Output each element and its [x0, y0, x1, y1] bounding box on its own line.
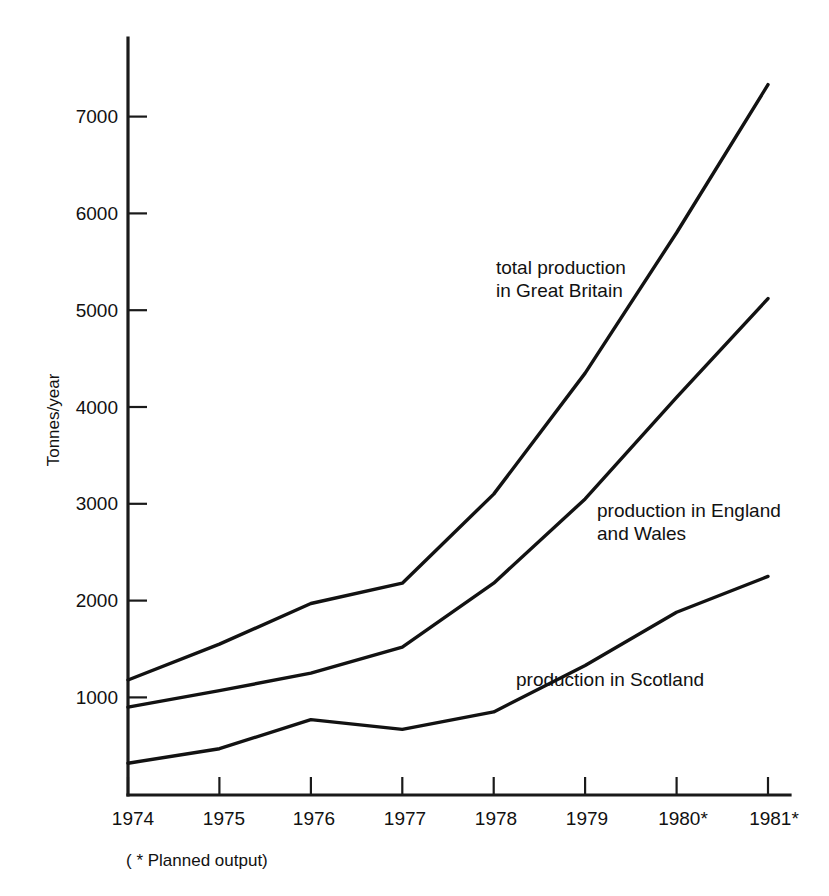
y-axis-title: Tonnes/year	[44, 373, 63, 466]
x-tick-label-1977: 1977	[384, 808, 426, 829]
chart-background	[0, 0, 829, 896]
annotation-total-line1: total production	[496, 257, 626, 278]
chart-canvas: 1000 2000 3000 4000 5000 6000 7000 Tonne…	[0, 0, 829, 896]
y-tick-label-3000: 3000	[76, 493, 118, 514]
y-tick-label-1000: 1000	[76, 687, 118, 708]
x-tick-label-1979: 1979	[566, 808, 608, 829]
y-tick-label-7000: 7000	[76, 106, 118, 127]
y-tick-label-5000: 5000	[76, 300, 118, 321]
chart-footnote: ( * Planned output)	[126, 851, 268, 870]
x-tick-label-1980: 1980*	[658, 808, 708, 829]
annotation-ew-line1: production in England	[597, 500, 781, 521]
y-tick-label-6000: 6000	[76, 203, 118, 224]
line-chart-figure: 1000 2000 3000 4000 5000 6000 7000 Tonne…	[0, 0, 829, 896]
annotation-ew-line2: and Wales	[597, 523, 686, 544]
annotation-scotland: production in Scotland	[516, 669, 704, 690]
x-tick-label-1978: 1978	[475, 808, 517, 829]
x-tick-label-1974: 1974	[112, 808, 155, 829]
y-tick-label-2000: 2000	[76, 590, 118, 611]
x-tick-label-1981: 1981*	[749, 808, 799, 829]
annotation-total-line2: in Great Britain	[496, 280, 623, 301]
annotation-scotland-line1: production in Scotland	[516, 669, 704, 690]
y-tick-label-4000: 4000	[76, 397, 118, 418]
x-tick-label-1976: 1976	[293, 808, 335, 829]
x-tick-label-1975: 1975	[203, 808, 245, 829]
